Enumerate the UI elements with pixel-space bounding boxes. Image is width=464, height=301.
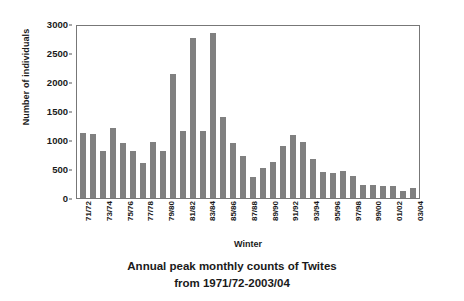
x-axis-title: Winter [76, 239, 420, 249]
x-tick-slot [170, 200, 180, 238]
bar-slot [98, 26, 108, 198]
x-tick-slot: 83/84 [201, 200, 211, 238]
chart-title-line-1: Annual peak monthly counts of Twites [0, 258, 464, 275]
bar-slot [228, 26, 238, 198]
x-tick-slot [295, 200, 305, 238]
bar [150, 142, 157, 198]
y-tick-label: 3000 [47, 20, 68, 30]
x-tick-slot: 03/04 [409, 200, 419, 238]
bar-slot [118, 26, 128, 198]
bar [370, 185, 377, 198]
bar [190, 38, 197, 198]
bar-slot [178, 26, 188, 198]
bar-slot [208, 26, 218, 198]
bar [180, 131, 187, 198]
bar-slot [368, 26, 378, 198]
y-tick-mark [69, 141, 72, 142]
x-tick-slot [315, 200, 325, 238]
bar-slot [398, 26, 408, 198]
bar-slot [258, 26, 268, 198]
x-axis-ticks: 71/7273/7475/7677/7879/8081/8283/8485/86… [76, 200, 420, 238]
bar [260, 168, 267, 198]
bar-slot [88, 26, 98, 198]
bar [200, 131, 207, 198]
bar [210, 33, 217, 198]
bar-slot [168, 26, 178, 198]
y-tick-label: 500 [52, 165, 68, 175]
bar-slot [388, 26, 398, 198]
bar [120, 143, 127, 198]
y-tick-label: 1500 [47, 107, 68, 117]
bar [100, 151, 107, 198]
y-tick-mark [69, 199, 72, 200]
bar-slot [338, 26, 348, 198]
x-tick-slot [129, 200, 139, 238]
bar-slot [198, 26, 208, 198]
bar-slot [78, 26, 88, 198]
bar-slot [108, 26, 118, 198]
bar-slot [288, 26, 298, 198]
bar-slot [248, 26, 258, 198]
bar-slot [318, 26, 328, 198]
y-tick-mark [69, 54, 72, 55]
x-tick-slot: 87/88 [243, 200, 253, 238]
bar [110, 128, 117, 198]
x-tick-slot: 01/02 [388, 200, 398, 238]
bar-slot [308, 26, 318, 198]
x-tick-slot [232, 200, 242, 238]
bar-slot [158, 26, 168, 198]
bar-slot [128, 26, 138, 198]
chart-title: Annual peak monthly counts of Twites fro… [0, 258, 464, 292]
bar [140, 163, 147, 198]
bar [320, 172, 327, 198]
bar-slot [138, 26, 148, 198]
x-tick-slot [253, 200, 263, 238]
y-tick-mark [69, 170, 72, 171]
bar-slot [328, 26, 338, 198]
bar-slot [148, 26, 158, 198]
x-tick-slot [357, 200, 367, 238]
bar-slot [278, 26, 288, 198]
x-tick-slot: 95/96 [326, 200, 336, 238]
x-tick-slot: 89/90 [263, 200, 273, 238]
x-tick-slot: 93/94 [305, 200, 315, 238]
chart-figure: Number of individuals 050010001500200025… [0, 0, 464, 301]
bar [160, 151, 167, 198]
x-tick-slot: 91/92 [284, 200, 294, 238]
x-tick-slot: 81/82 [181, 200, 191, 238]
bar [410, 188, 417, 198]
bar-slot [378, 26, 388, 198]
x-tick-slot [336, 200, 346, 238]
x-tick-label: 03/04 [417, 201, 425, 221]
bar-series [77, 26, 419, 198]
chart-title-line-2: from 1971/72-2003/04 [0, 275, 464, 292]
bar-slot [298, 26, 308, 198]
y-tick-label: 1000 [47, 136, 68, 146]
y-tick-label: 0 [63, 194, 68, 204]
bar [240, 156, 247, 198]
y-tick-mark [69, 25, 72, 26]
bar [330, 173, 337, 198]
bar [310, 159, 317, 198]
bar-slot [218, 26, 228, 198]
bar [90, 134, 97, 198]
bar [380, 186, 387, 198]
y-axis-ticks: 050010001500200025003000 [28, 25, 72, 199]
y-tick-label: 2500 [47, 49, 68, 59]
y-tick-mark [69, 112, 72, 113]
bar [290, 135, 297, 198]
y-tick-mark [69, 83, 72, 84]
x-tick-slot [274, 200, 284, 238]
bar-slot [268, 26, 278, 198]
x-tick-slot: 73/74 [98, 200, 108, 238]
bar [280, 146, 287, 198]
x-tick-slot: 97/98 [346, 200, 356, 238]
x-tick-slot: 71/72 [77, 200, 87, 238]
x-tick-slot: 99/00 [367, 200, 377, 238]
x-tick-slot: 77/78 [139, 200, 149, 238]
bar [250, 177, 257, 198]
bar [270, 162, 277, 198]
bar [390, 186, 397, 198]
bar [130, 151, 137, 198]
bar-slot [348, 26, 358, 198]
